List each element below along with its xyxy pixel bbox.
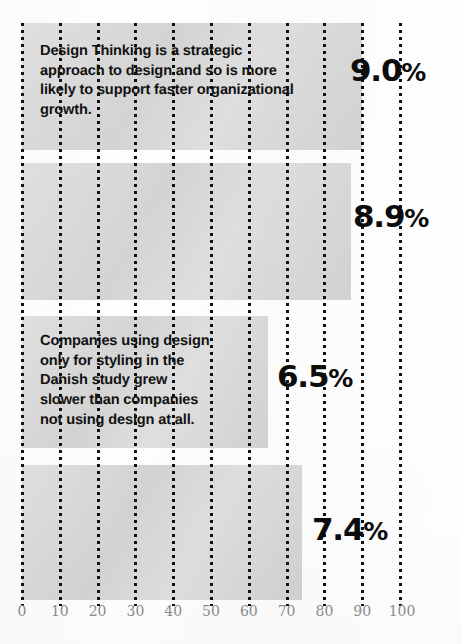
x-tick-label-40: 40	[164, 604, 182, 618]
percent-sign-2: %	[404, 204, 429, 233]
plot-area: Design Thinking is a strategic approach …	[22, 23, 400, 600]
gridline-0	[21, 23, 24, 606]
gridline-60	[248, 23, 251, 606]
x-tick-label-0: 0	[18, 604, 27, 618]
gridline-30	[134, 23, 137, 606]
percent-sign-3: %	[328, 364, 353, 393]
x-tick-label-60: 60	[240, 604, 258, 618]
gridline-100	[399, 23, 402, 606]
percent-sign-4: %	[363, 517, 388, 546]
value-label-bar-4: 7.4%	[312, 514, 388, 545]
x-tick-label-90: 90	[353, 604, 371, 618]
bar-3-annotation-text: Companies using design only for styling …	[40, 332, 255, 430]
gridline-10	[59, 23, 62, 606]
bar-row-1: Design Thinking is a strategic approach …	[22, 23, 362, 150]
gridline-50	[210, 23, 213, 606]
value-label-bar-1: 9.0%	[350, 55, 426, 86]
bar-row-2	[22, 163, 351, 300]
value-label-bar-2-number: 8.9	[353, 198, 404, 234]
bar-1-annotation-text: Design Thinking is a strategic approach …	[40, 42, 352, 121]
value-label-bar-2: 8.9%	[353, 201, 429, 232]
percent-sign-1: %	[401, 58, 426, 87]
value-label-bar-3-number: 6.5	[277, 358, 328, 394]
x-axis: 0 10 20 30 40 50 60 70 80 90 100	[0, 604, 462, 632]
horizontal-bar-chart: Design Thinking is a strategic approach …	[0, 0, 462, 644]
x-tick-label-100: 100	[389, 604, 416, 618]
x-tick-label-30: 30	[126, 604, 144, 618]
x-tick-label-20: 20	[89, 604, 107, 618]
x-tick-label-80: 80	[315, 604, 333, 618]
gridline-20	[97, 23, 100, 606]
gridline-40	[172, 23, 175, 606]
value-label-bar-1-number: 9.0	[350, 52, 401, 88]
value-label-bar-4-number: 7.4	[312, 511, 363, 547]
bar-row-4	[22, 465, 302, 600]
x-tick-label-70: 70	[278, 604, 296, 618]
x-tick-label-50: 50	[202, 604, 220, 618]
gridline-70	[286, 23, 289, 606]
x-tick-label-10: 10	[51, 604, 69, 618]
value-label-bar-3: 6.5%	[277, 361, 353, 392]
